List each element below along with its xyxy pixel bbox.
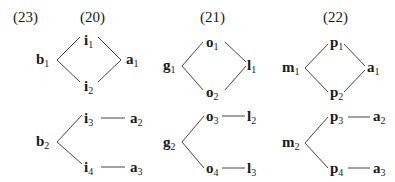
diagram-d22: p1m1a1p2p3a2m2p4a3 — [282, 34, 386, 178]
edge-line — [305, 68, 328, 92]
edge-line — [98, 37, 121, 60]
edge-line — [225, 42, 246, 62]
node-l3: l3 — [247, 160, 256, 178]
node-l2: l2 — [247, 108, 256, 126]
edge-line — [305, 44, 328, 68]
edge-line — [344, 70, 365, 92]
node-b1: b1 — [36, 51, 49, 69]
node-b2: b2 — [36, 133, 49, 151]
node-p3: p3 — [330, 108, 343, 126]
node-l1: l1 — [247, 57, 256, 75]
edge-line — [57, 115, 82, 142]
edge-line — [182, 42, 203, 66]
example-number-ex20: (20) — [80, 9, 105, 26]
edge-line — [225, 66, 246, 90]
lattice-diagrams: i1b1a1i2i3a2b2i4a3o1g1l1o2o3l2g2o4l3p1m1… — [36, 32, 386, 178]
diagram-d21: o1g1l1o2o3l2g2o4l3 — [163, 34, 256, 178]
node-o2: o2 — [206, 84, 219, 102]
branch-graph: o3l2g2o4l3 — [163, 108, 256, 178]
example-number-ex23: (23) — [13, 9, 38, 26]
node-i2: i2 — [84, 78, 93, 96]
example-number-ex22: (22) — [323, 9, 348, 26]
node-i3: i3 — [84, 110, 93, 128]
node-a3: a3 — [130, 159, 143, 177]
edge-line — [57, 60, 80, 82]
edge-line — [344, 44, 365, 66]
node-a1: a1 — [367, 59, 380, 77]
diagram-canvas: (23)(20)(21)(22) i1b1a1i2i3a2b2i4a3o1g1l… — [0, 0, 395, 182]
edge-line — [57, 142, 82, 164]
node-o4: o4 — [206, 160, 219, 178]
edge-line — [182, 142, 204, 168]
edge-line — [182, 66, 203, 90]
node-m2: m2 — [282, 134, 300, 152]
node-a1: a1 — [126, 51, 139, 69]
node-g1: g1 — [163, 57, 176, 75]
branch-graph: i3a2b2i4a3 — [36, 110, 143, 177]
node-p2: p2 — [330, 84, 343, 102]
node-p1: p1 — [330, 34, 343, 52]
node-o1: o1 — [206, 34, 219, 52]
diamond-graph: i1b1a1i2 — [36, 32, 139, 96]
example-number-ex21: (21) — [200, 9, 225, 26]
edge-line — [98, 60, 121, 82]
node-a2: a2 — [130, 110, 143, 128]
diamond-graph: p1m1a1p2 — [282, 34, 380, 102]
node-p4: p4 — [330, 160, 343, 178]
edge-line — [182, 116, 204, 142]
node-o3: o3 — [206, 108, 219, 126]
branch-graph: p3a2m2p4a3 — [282, 108, 386, 178]
node-i1: i1 — [84, 32, 93, 50]
edge-line — [305, 143, 328, 168]
node-i4: i4 — [84, 159, 93, 177]
node-g2: g2 — [163, 134, 176, 152]
node-a2: a2 — [373, 108, 386, 126]
diagram-d20: i1b1a1i2i3a2b2i4a3 — [36, 32, 143, 177]
edge-line — [57, 37, 80, 60]
example-labels: (23)(20)(21)(22) — [13, 9, 348, 26]
node-m1: m1 — [282, 59, 300, 77]
edge-line — [305, 117, 328, 143]
node-a3: a3 — [373, 160, 386, 178]
diamond-graph: o1g1l1o2 — [163, 34, 256, 102]
